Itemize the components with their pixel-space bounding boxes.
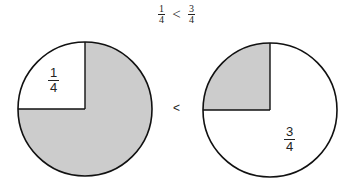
numerator: 1	[48, 66, 59, 81]
denominator: 4	[286, 140, 293, 154]
comparison-symbol: <	[173, 101, 180, 115]
shaded-quadrant	[203, 43, 270, 110]
numerator: 3	[284, 125, 295, 140]
left-circle-label: 1 4	[48, 66, 59, 94]
right-circle-label: 3 4	[284, 125, 295, 153]
right-circle	[203, 43, 337, 177]
left-circle	[18, 42, 152, 176]
denominator: 4	[50, 81, 57, 95]
